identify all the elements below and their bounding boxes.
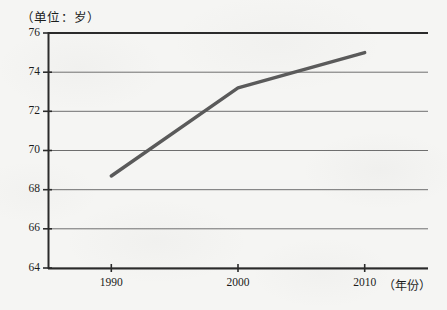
gridlines-group (48, 33, 428, 268)
x-axis-title: （年份） (383, 276, 431, 294)
y-tick-label: 70 (10, 143, 40, 155)
plot-area (0, 0, 447, 310)
y-tick-label: 66 (10, 221, 40, 233)
y-tick-label: 74 (10, 65, 40, 77)
y-tick-label: 68 (10, 182, 40, 194)
y-tick-label: 72 (10, 104, 40, 116)
x-tick-label: 2000 (208, 276, 268, 288)
y-tick-label: 64 (10, 261, 40, 273)
line-chart: （单位：岁） 64666870727476 199020002010 （年份） (0, 0, 447, 310)
y-tick-label: 76 (10, 26, 40, 38)
data-series-line (111, 53, 364, 176)
x-tick-label: 1990 (81, 276, 141, 288)
